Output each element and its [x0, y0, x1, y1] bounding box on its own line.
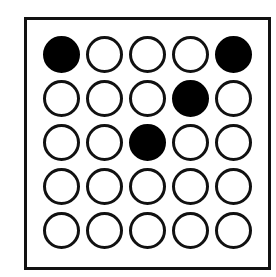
empty-circle — [172, 212, 209, 249]
empty-circle — [215, 124, 252, 161]
empty-circle — [215, 80, 252, 117]
empty-circle — [172, 168, 209, 205]
empty-circle — [215, 212, 252, 249]
filled-circle — [129, 124, 166, 161]
filled-circle — [43, 36, 80, 73]
filled-circle — [215, 36, 252, 73]
empty-circle — [129, 168, 166, 205]
empty-circle — [86, 80, 123, 117]
empty-circle — [172, 124, 209, 161]
empty-circle — [43, 168, 80, 205]
empty-circle — [86, 124, 123, 161]
filled-circle — [172, 80, 209, 117]
empty-circle — [129, 212, 166, 249]
empty-circle — [43, 212, 80, 249]
empty-circle — [43, 80, 80, 117]
grid-frame — [24, 17, 271, 270]
empty-circle — [43, 124, 80, 161]
empty-circle — [86, 168, 123, 205]
empty-circle — [86, 36, 123, 73]
empty-circle — [129, 80, 166, 117]
empty-circle — [172, 36, 209, 73]
empty-circle — [129, 36, 166, 73]
empty-circle — [86, 212, 123, 249]
empty-circle — [215, 168, 252, 205]
